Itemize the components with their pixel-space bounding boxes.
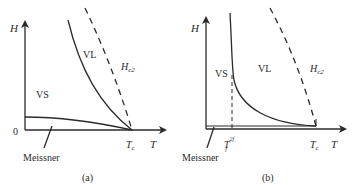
tc-label-b: Tc: [310, 139, 319, 152]
meissner-pointer-b: [207, 127, 214, 148]
t-axis-label-b: T: [331, 138, 338, 150]
caption-b: (b): [262, 172, 274, 184]
vl-boundary-curve-b: [230, 13, 316, 126]
panel-b: H T Tc T2ff VS VL Hc2 Meissner (b): [182, 8, 345, 184]
vs-region-label-a: VS: [36, 89, 49, 100]
meissner-label-b: Meissner: [182, 152, 219, 163]
h-axis-label-a: H: [9, 22, 19, 34]
hc2-label-a: Hc2: [120, 61, 135, 74]
t-axis-label-a: T: [150, 138, 157, 150]
meissner-boundary-a: [25, 117, 132, 130]
tf-label-b: T2ff: [224, 136, 236, 152]
vl-region-label-a: VL: [83, 49, 96, 60]
vl-boundary-curve-a: [68, 20, 132, 130]
vl-region-label-b: VL: [258, 63, 271, 74]
h-axis-label-b: H: [190, 22, 200, 34]
tc-label-a: Tc: [126, 139, 135, 152]
caption-a: (a): [82, 172, 93, 184]
panel-a: H 0 T Tc VS VL Hc2 Meissner (a): [9, 8, 165, 184]
vs-region-label-b: VS: [215, 68, 228, 79]
meissner-label-a: Meissner: [23, 152, 60, 163]
origin-label-a: 0: [13, 126, 18, 137]
meissner-pointer-a: [44, 126, 52, 148]
phase-diagram: H 0 T Tc VS VL Hc2 Meissner (a) H T Tc T…: [0, 0, 357, 185]
hc2-label-b: Hc2: [309, 63, 324, 76]
